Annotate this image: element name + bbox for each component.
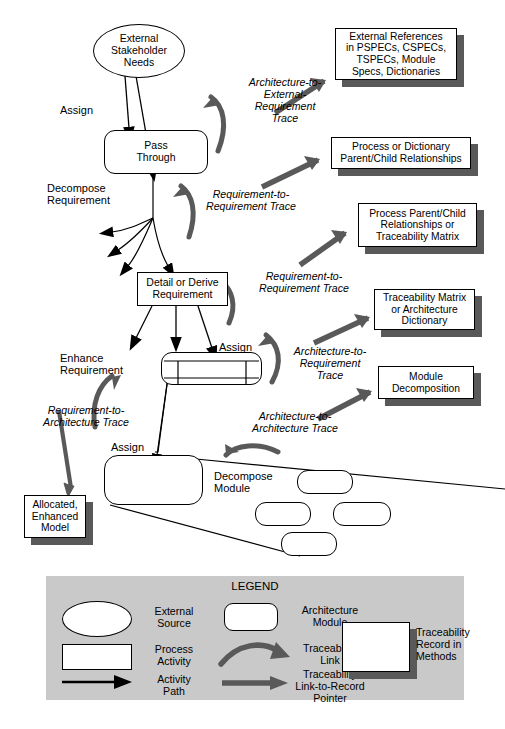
legend-symbol-traceability-record — [342, 622, 410, 672]
trace-label-requirement-to-requirement-1: Requirement-to- Requirement Trace — [190, 188, 312, 212]
record-external-references[interactable]: External References in PSPECs, CSPECs, T… — [335, 28, 457, 80]
label-assign-3: Assign — [111, 441, 144, 453]
record-label: Process or Dictionary Parent/Child Relat… — [340, 141, 461, 164]
node-assign-module[interactable] — [104, 455, 203, 505]
label-decompose-module: Decompose Module — [214, 470, 273, 495]
legend-symbol-process-activity — [62, 644, 132, 670]
node-label: External Stakeholder Needs — [111, 33, 167, 68]
legend-label-traceability-link-to-record-pointer: Traceability Link-to-Record Pointer — [284, 668, 376, 705]
label-enhance-requirement: Enhance Requirement — [60, 352, 123, 377]
node-decompose-child-3[interactable] — [333, 502, 391, 526]
record-process-or-dictionary[interactable]: Process or Dictionary Parent/Child Relat… — [331, 137, 471, 169]
module-internal-dividers — [161, 352, 262, 385]
legend-symbol-activity-path — [62, 674, 134, 690]
legend-symbol-external-source — [62, 601, 132, 637]
node-decompose-child-1[interactable] — [297, 470, 353, 494]
record-process-parent-child[interactable]: Process Parent/Child Relationships or Tr… — [358, 203, 477, 247]
trace-label-requirement-to-requirement-2: Requirement-to- Requirement Trace — [243, 270, 365, 294]
legend-label-activity-path: Activity Path — [138, 673, 210, 697]
record-label: External References in PSPECs, CSPECs, T… — [346, 31, 446, 77]
node-external-stakeholder-needs[interactable]: External Stakeholder Needs — [93, 24, 185, 78]
record-traceability-matrix[interactable]: Traceability Matrix or Architecture Dict… — [374, 289, 475, 330]
node-enhance-module[interactable] — [161, 352, 262, 385]
label-decompose-requirement: Decompose Requirement — [47, 182, 110, 207]
trace-label-architecture-to-architecture: Architecture-to- Architecture Trace — [231, 410, 359, 434]
label-assign-1: Assign — [60, 104, 93, 116]
trace-label-architecture-to-requirement: Architecture-to- Requirement Trace — [275, 345, 385, 381]
legend-title: LEGEND — [46, 580, 464, 592]
node-label: Detail or Derive Requirement — [146, 277, 218, 301]
node-decompose-child-2[interactable] — [255, 502, 311, 526]
diagram-canvas: External Stakeholder Needs Pass Through … — [0, 0, 505, 729]
node-label: Pass Through — [136, 140, 175, 164]
record-allocated-enhanced-model[interactable]: Allocated, Enhanced Model — [24, 495, 86, 538]
record-label: Traceability Matrix or Architecture Dict… — [383, 292, 466, 327]
record-label: Process Parent/Child Relationships or Tr… — [369, 208, 466, 243]
trace-label-architecture-to-external-requirement: Architecture-to- External- Requirement T… — [227, 76, 343, 124]
node-detail-or-derive-requirement[interactable]: Detail or Derive Requirement — [137, 272, 228, 306]
legend-label-traceability-record-in-methods: Traceability Record in Methods — [416, 626, 494, 663]
record-label: Module Decomposition — [392, 371, 460, 394]
label-assign-2: Assign — [219, 341, 252, 353]
legend-panel: LEGEND External Source Process Activity … — [46, 576, 464, 700]
node-decompose-child-4[interactable] — [281, 532, 337, 556]
node-pass-through[interactable]: Pass Through — [104, 130, 208, 174]
legend-label-process-activity: Process Activity — [138, 643, 210, 667]
legend-label-external-source: External Source — [138, 605, 210, 629]
record-label: Allocated, Enhanced Model — [32, 499, 78, 534]
legend-symbol-architecture-module — [224, 603, 278, 631]
record-module-decomposition[interactable]: Module Decomposition — [378, 366, 474, 399]
trace-label-requirement-to-architecture: Requirement-to- Architecture Trace — [22, 404, 150, 428]
